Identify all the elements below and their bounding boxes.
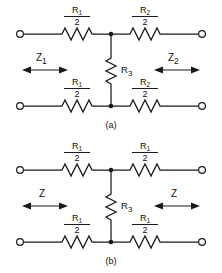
impedance-arrow-left-head bbox=[22, 67, 31, 74]
terminal-bottom-left bbox=[17, 239, 24, 246]
label-resistor-top-left: R1 2 bbox=[64, 6, 90, 28]
label-resistor-bottom-right: R2 2 bbox=[132, 78, 158, 100]
resistor-top-right-symbol bbox=[130, 28, 160, 40]
resistor-top-right-symbol bbox=[130, 164, 160, 176]
label-impedance-left: Z bbox=[39, 188, 45, 202]
label-resistor-shunt: R3 bbox=[121, 200, 132, 214]
resistor-shunt-symbol bbox=[106, 194, 116, 220]
junction-node-bottom bbox=[109, 104, 114, 109]
impedance-arrow-right-head-left bbox=[154, 203, 163, 210]
terminal-top-right bbox=[199, 31, 206, 38]
label-resistor-bottom-left: R1 2 bbox=[64, 78, 90, 100]
junction-node-top bbox=[109, 32, 114, 37]
circuit-figure: R1 2 R2 2 R1 2 R2 2 R3 Z1 Z2 (a) bbox=[0, 0, 222, 273]
terminal-bottom-right bbox=[199, 103, 206, 110]
label-impedance-left: Z1 bbox=[36, 52, 47, 66]
resistor-bottom-left-symbol bbox=[62, 236, 92, 248]
terminal-bottom-right bbox=[199, 239, 206, 246]
impedance-arrow-right-head bbox=[191, 203, 200, 210]
circuit-a-svg bbox=[0, 0, 222, 137]
caption-a: (a) bbox=[0, 120, 222, 130]
resistor-bottom-left-symbol bbox=[62, 100, 92, 112]
terminal-top-left bbox=[17, 31, 24, 38]
caption-b: (b) bbox=[0, 256, 222, 266]
circuit-diagram-a: R1 2 R2 2 R1 2 R2 2 R3 Z1 Z2 (a) bbox=[0, 0, 222, 137]
label-resistor-top-right: R2 2 bbox=[132, 6, 158, 28]
resistor-bottom-right-symbol bbox=[130, 236, 160, 248]
label-resistor-top-right: R1 2 bbox=[132, 142, 158, 164]
resistor-shunt-symbol bbox=[106, 58, 116, 84]
resistor-bottom-right-symbol bbox=[130, 100, 160, 112]
label-resistor-shunt: R3 bbox=[121, 64, 132, 78]
terminal-top-right bbox=[199, 167, 206, 174]
impedance-arrow-left-head-right bbox=[59, 203, 68, 210]
junction-node-top bbox=[109, 168, 114, 173]
label-resistor-top-left: R1 2 bbox=[64, 142, 90, 164]
label-impedance-right: Z2 bbox=[168, 52, 179, 66]
label-impedance-right: Z bbox=[171, 188, 177, 202]
label-resistor-bottom-right: R1 2 bbox=[132, 214, 158, 236]
terminal-top-left bbox=[17, 167, 24, 174]
circuit-b-svg bbox=[0, 136, 222, 273]
terminal-bottom-left bbox=[17, 103, 24, 110]
circuit-diagram-b: R1 2 R1 2 R1 2 R1 2 R3 Z Z (b) bbox=[0, 136, 222, 273]
impedance-arrow-left-head bbox=[22, 203, 31, 210]
label-resistor-bottom-left: R1 2 bbox=[64, 214, 90, 236]
resistor-top-left-symbol bbox=[62, 28, 92, 40]
resistor-top-left-symbol bbox=[62, 164, 92, 176]
impedance-arrow-left-head-right bbox=[59, 67, 68, 74]
impedance-arrow-right-head bbox=[191, 67, 200, 74]
junction-node-bottom bbox=[109, 240, 114, 245]
impedance-arrow-right-head-left bbox=[154, 67, 163, 74]
